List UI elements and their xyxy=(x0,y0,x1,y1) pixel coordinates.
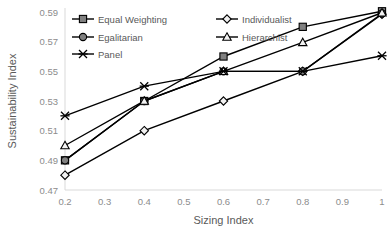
y-tick-label: 0.59 xyxy=(40,7,59,18)
x-axis-title: Sizing Index xyxy=(194,214,254,226)
y-tick-label: 0.55 xyxy=(40,66,59,77)
x-tick-label: 0.7 xyxy=(257,196,270,207)
legend-item-egalitarian[interactable]: Egalitarian xyxy=(72,32,143,43)
chart-legend: Equal WeightingIndividualistEgalitarianH… xyxy=(72,14,292,60)
marker-circle xyxy=(61,157,68,164)
marker-cross-star xyxy=(377,52,386,60)
y-tick-label: 0.53 xyxy=(40,96,59,107)
marker-diamond xyxy=(223,15,231,23)
x-tick-label: 0.5 xyxy=(177,196,190,207)
marker-diamond xyxy=(140,126,148,134)
y-tick-label: 0.49 xyxy=(40,155,59,166)
marker-circle xyxy=(79,33,86,40)
x-axis-tick-labels: 0.20.30.40.50.60.70.80.91 xyxy=(58,196,384,207)
marker-square xyxy=(299,23,306,30)
marker-cross-star xyxy=(78,50,87,58)
y-axis-title: Sustainability Index xyxy=(6,53,18,148)
legend-item-label: Panel xyxy=(98,49,122,60)
legend-item-hierarchist[interactable]: Hierarchist xyxy=(216,32,288,43)
sustainability-index-line-chart: 0.470.490.510.530.550.570.59 0.20.30.40.… xyxy=(0,0,389,233)
y-tick-label: 0.51 xyxy=(40,125,59,136)
y-tick-label: 0.47 xyxy=(40,185,59,196)
legend-item-label: Individualist xyxy=(242,14,292,25)
legend-item-individualist[interactable]: Individualist xyxy=(216,14,292,25)
marker-square xyxy=(220,53,227,60)
x-tick-label: 0.6 xyxy=(217,196,230,207)
x-tick-label: 0.2 xyxy=(58,196,71,207)
y-tick-label: 0.57 xyxy=(40,36,59,47)
marker-triangle xyxy=(61,141,69,148)
series-panel xyxy=(60,52,386,120)
chart-canvas: 0.470.490.510.530.550.570.59 0.20.30.40.… xyxy=(0,0,389,233)
y-axis-tick-labels: 0.470.490.510.530.550.570.59 xyxy=(40,7,59,196)
marker-cross-star xyxy=(140,82,149,90)
legend-item-label: Equal Weighting xyxy=(98,14,167,25)
x-tick-label: 1 xyxy=(379,196,384,207)
legend-item-panel[interactable]: Panel xyxy=(72,49,122,60)
legend-item-label: Egalitarian xyxy=(98,32,143,43)
marker-square xyxy=(79,15,86,22)
x-tick-label: 0.3 xyxy=(98,196,111,207)
marker-diamond xyxy=(61,171,69,179)
x-tick-label: 0.9 xyxy=(336,196,349,207)
legend-item-equal-weighting[interactable]: Equal Weighting xyxy=(72,14,167,25)
series-line-path xyxy=(65,56,382,116)
x-tick-label: 0.8 xyxy=(296,196,309,207)
x-tick-label: 0.4 xyxy=(138,196,151,207)
marker-diamond xyxy=(219,97,227,105)
legend-item-label: Hierarchist xyxy=(242,32,288,43)
